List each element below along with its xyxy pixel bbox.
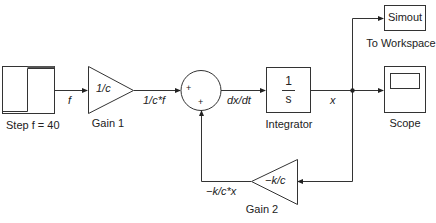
integrator-numerator: 1 [285,74,292,88]
signal-x-label: x [330,94,336,106]
gain1-value: 1/c [96,82,111,94]
integrator-label: Integrator [265,118,312,130]
signal-feedback-out-line [202,111,252,182]
signal-f-label: f [68,94,71,106]
gain1-label: Gain 1 [92,117,124,129]
step-block[interactable] [3,67,55,114]
sum-sign-bottom: + [198,97,203,107]
integrator-denominator: s [286,92,292,106]
signal-gain1-out-label: 1/c*f [143,94,165,106]
step-block-label: Step f = 40 [6,119,60,131]
scope-screen-icon [391,74,420,89]
gain2-label: Gain 2 [246,203,278,215]
to-workspace-label: To Workspace [366,37,436,49]
branch-point [350,88,354,92]
to-workspace-value: Simout [388,11,422,23]
sum-sign-left: + [186,83,191,93]
gain2-value: −k/c [265,174,285,186]
scope-label: Scope [389,117,420,129]
signal-feedback-label: −k/c*x [206,185,236,197]
signal-dxdt-label: dx/dt [227,94,251,106]
signal-to-workspace-line [353,19,384,91]
